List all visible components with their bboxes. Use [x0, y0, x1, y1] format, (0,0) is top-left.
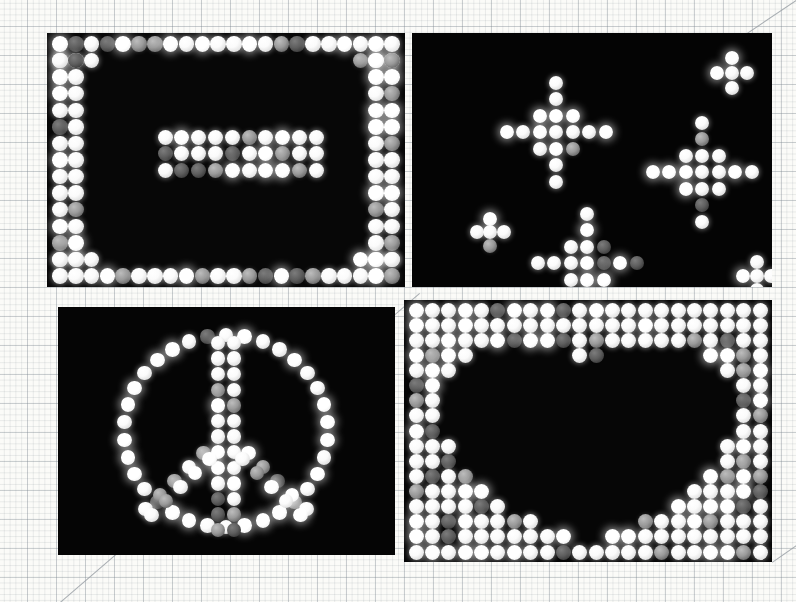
lite-brite-peg — [158, 130, 173, 145]
lite-brite-peg — [720, 439, 735, 454]
lite-brite-peg — [483, 212, 497, 226]
lite-brite-peg — [52, 185, 68, 201]
lite-brite-peg — [211, 367, 226, 382]
lite-brite-peg — [695, 132, 709, 146]
lite-brite-peg — [490, 514, 505, 529]
lite-brite-peg — [646, 165, 660, 179]
lite-brite-peg — [720, 348, 735, 363]
lite-brite-peg — [425, 378, 440, 393]
lite-brite-peg — [300, 366, 315, 381]
lite-brite-peg — [531, 256, 545, 270]
lite-brite-peg — [425, 545, 440, 560]
lite-brite-peg — [523, 303, 538, 318]
lite-brite-peg — [425, 439, 440, 454]
lite-brite-peg — [750, 283, 764, 287]
photo-panel-heart — [404, 300, 772, 562]
lite-brite-peg — [242, 130, 257, 145]
lite-brite-peg — [441, 469, 456, 484]
lite-brite-peg — [540, 318, 555, 333]
lite-brite-peg — [441, 529, 456, 544]
lite-brite-peg — [150, 353, 165, 368]
lite-brite-peg — [317, 450, 332, 465]
lite-brite-peg — [227, 476, 242, 491]
lite-brite-peg — [68, 202, 84, 218]
lite-brite-peg — [736, 333, 751, 348]
lite-brite-peg — [753, 484, 768, 499]
lite-brite-peg — [750, 269, 764, 283]
lite-brite-peg — [474, 303, 489, 318]
lite-brite-peg — [474, 318, 489, 333]
lite-brite-peg — [589, 545, 604, 560]
lite-brite-peg — [425, 393, 440, 408]
lite-brite-peg — [507, 333, 522, 348]
lite-brite-peg — [483, 225, 497, 239]
lite-brite-peg — [720, 469, 735, 484]
lite-brite-peg — [687, 499, 702, 514]
lite-brite-peg — [225, 163, 240, 178]
lite-brite-peg — [289, 36, 305, 52]
lite-brite-peg — [547, 256, 561, 270]
lite-brite-peg — [68, 119, 84, 135]
lite-brite-peg — [368, 268, 384, 284]
lite-brite-peg — [523, 514, 538, 529]
lite-brite-peg — [211, 414, 226, 429]
lite-brite-peg — [507, 545, 522, 560]
lite-brite-peg — [753, 529, 768, 544]
lite-brite-peg — [68, 169, 84, 185]
lite-brite-peg — [580, 207, 594, 221]
lite-brite-peg — [425, 499, 440, 514]
lite-brite-peg — [131, 268, 147, 284]
lite-brite-peg — [368, 53, 384, 69]
lite-brite-peg — [425, 424, 440, 439]
photo-panel-rectangle — [47, 33, 405, 287]
lite-brite-peg — [68, 86, 84, 102]
lite-brite-peg — [211, 507, 226, 522]
lite-brite-peg — [507, 514, 522, 529]
lite-brite-peg — [127, 381, 142, 396]
lite-brite-peg — [613, 256, 627, 270]
lite-brite-peg — [211, 523, 226, 538]
lite-brite-peg — [274, 268, 290, 284]
lite-brite-peg — [736, 348, 751, 363]
lite-brite-peg — [368, 136, 384, 152]
lite-brite-peg — [368, 169, 384, 185]
lite-brite-peg — [384, 69, 400, 85]
lite-brite-peg — [409, 333, 424, 348]
lite-brite-peg — [191, 163, 206, 178]
lite-brite-peg — [409, 318, 424, 333]
lite-brite-peg — [533, 142, 547, 156]
lite-brite-peg — [368, 119, 384, 135]
lite-brite-peg — [621, 318, 636, 333]
lite-brite-peg — [84, 268, 100, 284]
lite-brite-peg — [720, 333, 735, 348]
lite-brite-peg — [556, 318, 571, 333]
lite-brite-peg — [474, 484, 489, 499]
lite-brite-peg — [147, 268, 163, 284]
lite-brite-peg — [384, 202, 400, 218]
lite-brite-peg — [753, 348, 768, 363]
lite-brite-peg — [227, 398, 242, 413]
lite-brite-peg — [208, 130, 223, 145]
lite-brite-peg — [321, 36, 337, 52]
lite-brite-peg — [533, 109, 547, 123]
lite-brite-peg — [409, 378, 424, 393]
lite-brite-peg — [179, 36, 195, 52]
lite-brite-peg — [507, 318, 522, 333]
lite-brite-peg — [208, 163, 223, 178]
lite-brite-peg — [654, 545, 669, 560]
lite-brite-peg — [621, 303, 636, 318]
lite-brite-peg — [52, 86, 68, 102]
lite-brite-peg — [409, 545, 424, 560]
lite-brite-peg — [353, 268, 369, 284]
lite-brite-peg — [137, 366, 152, 381]
lite-brite-peg — [68, 235, 84, 251]
lite-brite-peg — [158, 146, 173, 161]
lite-brite-peg — [695, 116, 709, 130]
lite-brite-peg — [384, 169, 400, 185]
lite-brite-peg — [745, 165, 759, 179]
lite-brite-peg — [225, 146, 240, 161]
lite-brite-peg — [52, 252, 68, 268]
collage-canvas: Lite-Brite peg board photo collage — [0, 0, 796, 602]
lite-brite-peg — [274, 36, 290, 52]
lite-brite-peg — [736, 424, 751, 439]
